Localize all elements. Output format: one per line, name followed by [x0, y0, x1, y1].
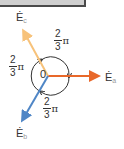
origin-label: 0	[40, 68, 46, 80]
phasor-c-label: Ėc	[16, 12, 27, 24]
angle-numerator: 2	[9, 55, 17, 67]
angle-denominator: 3	[55, 41, 61, 52]
phasor-c-subscript: c	[23, 17, 27, 24]
pi-symbol: π	[18, 61, 25, 72]
angle-label-left: 23 π	[9, 55, 24, 78]
phasor-a-label: Ėa	[105, 72, 116, 84]
angle-numerator: 2	[54, 29, 62, 41]
angle-label-bottom: 23 π	[43, 97, 58, 120]
angle-numerator: 2	[43, 97, 51, 109]
phasor-b-label: Ėb	[16, 128, 27, 140]
pi-symbol: π	[63, 35, 70, 46]
phasor-b-subscript: b	[23, 133, 27, 140]
phasor-a-subscript: a	[112, 77, 116, 84]
angle-denominator: 3	[44, 109, 50, 120]
angle-label-top-right: 23 π	[54, 29, 69, 52]
pi-symbol: π	[52, 103, 59, 114]
angle-denominator: 3	[10, 67, 16, 78]
